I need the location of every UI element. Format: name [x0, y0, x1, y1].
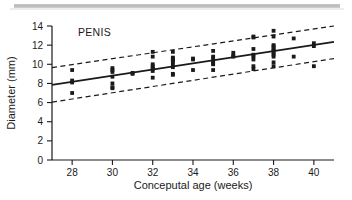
y-axis-ticks: 02468101214 — [32, 21, 52, 166]
data-point — [211, 62, 215, 66]
x-tick-label: 30 — [107, 167, 119, 178]
x-tick-label: 28 — [67, 167, 79, 178]
data-point — [171, 65, 175, 69]
y-tick-label: 10 — [32, 59, 44, 70]
data-point — [151, 50, 155, 54]
chart-canvas: 02468101214 28303234363840 PENIS Concepu… — [0, 0, 352, 200]
y-tick-label: 12 — [32, 40, 44, 51]
data-point — [151, 76, 155, 80]
regression-line — [52, 42, 334, 85]
data-point — [312, 44, 316, 48]
data-point — [151, 69, 155, 73]
y-tick-label: 0 — [37, 155, 43, 166]
y-tick-label: 2 — [37, 135, 43, 146]
data-point — [292, 55, 296, 59]
axes-group — [52, 26, 334, 160]
data-point — [272, 60, 276, 64]
data-point — [252, 67, 256, 71]
data-point — [111, 75, 115, 79]
x-tick-label: 40 — [308, 167, 320, 178]
data-point — [312, 64, 316, 68]
data-point — [171, 73, 175, 77]
data-point — [111, 86, 115, 90]
y-axis-title: Diameter (mm) — [5, 56, 17, 129]
x-axis-title: Conceputal age (weeks) — [134, 179, 253, 191]
y-tick-label: 6 — [37, 97, 43, 108]
data-point — [111, 70, 115, 74]
data-point — [272, 35, 276, 39]
data-point — [171, 50, 175, 54]
data-point — [151, 55, 155, 59]
data-point — [111, 82, 115, 86]
data-point — [252, 47, 256, 51]
data-point-group — [70, 29, 316, 95]
y-tick-label: 8 — [37, 78, 43, 89]
y-tick-label: 14 — [32, 21, 44, 32]
data-point — [272, 55, 276, 59]
data-point — [70, 91, 74, 95]
data-point — [211, 49, 215, 53]
data-point — [131, 72, 135, 76]
data-point — [292, 37, 296, 41]
x-tick-label: 38 — [268, 167, 280, 178]
data-point — [70, 68, 74, 72]
x-tick-label: 34 — [187, 167, 199, 178]
regression-line — [52, 42, 334, 85]
data-point — [191, 58, 195, 62]
scatter-chart-figure: 02468101214 28303234363840 PENIS Concepu… — [0, 0, 352, 200]
data-point — [211, 68, 215, 72]
data-point — [191, 68, 195, 72]
data-point — [272, 64, 276, 68]
lower-prediction-band — [52, 59, 334, 103]
x-tick-label: 36 — [228, 167, 240, 178]
x-tick-label: 32 — [147, 167, 159, 178]
x-axis-ticks: 28303234363840 — [67, 160, 320, 178]
plot-title: PENIS — [78, 26, 111, 38]
data-point — [272, 29, 276, 33]
data-point — [231, 55, 235, 59]
y-tick-label: 4 — [37, 116, 43, 127]
data-point — [252, 58, 256, 62]
data-point — [252, 36, 256, 40]
data-point — [70, 81, 74, 85]
